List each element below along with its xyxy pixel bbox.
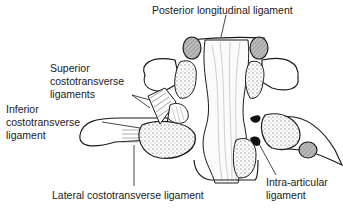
lower-vertebral-segment <box>233 139 256 178</box>
left-pedicle <box>175 61 197 99</box>
pointer-superior-2 <box>132 95 150 108</box>
label-superior-costotransverse-line3: ligaments <box>50 88 95 100</box>
right-shaded-oval <box>299 142 317 158</box>
left-articular-facet <box>183 37 201 59</box>
intra-articular-mark-upper <box>250 115 260 123</box>
label-intra-articular-line2: ligament <box>266 189 306 201</box>
label-inferior-costotransverse-line2: costotransverse <box>6 116 80 128</box>
label-superior-costotransverse-line2: costotransverse <box>50 75 124 87</box>
label-posterior-longitudinal-ligament: Posterior longitudinal ligament <box>152 4 293 16</box>
left-rib-head <box>139 122 195 159</box>
right-transverse-process <box>262 58 298 89</box>
right-articular-facet <box>250 37 268 59</box>
label-inferior-costotransverse-line3: ligament <box>6 129 46 141</box>
right-pedicle <box>246 61 264 98</box>
pointer-posterior-longitudinal <box>221 15 226 37</box>
label-lateral-costotransverse-ligament: Lateral costotransverse ligament <box>52 189 204 201</box>
label-inferior-costotransverse-line1: Inferior <box>6 103 39 115</box>
label-superior-costotransverse-line1: Superior <box>50 62 90 74</box>
label-intra-articular-line1: Intra-articular <box>266 176 328 188</box>
pointer-superior-1 <box>132 95 150 100</box>
